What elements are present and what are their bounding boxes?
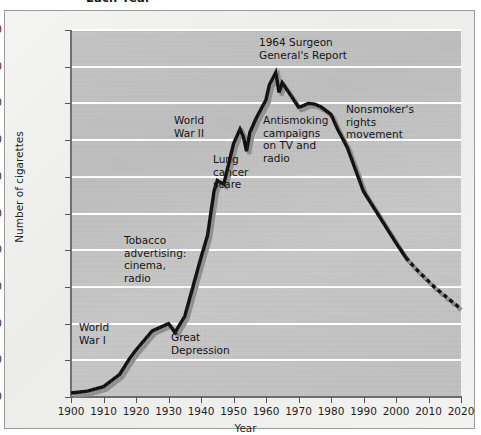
x-axis-tick-mark <box>429 397 430 403</box>
y-axis-tick-label: 2000 <box>0 243 2 255</box>
data-series-line <box>71 30 461 397</box>
annotation-nonsmoker-rights: Nonsmoker's rights movement <box>346 103 414 141</box>
y-axis-tick-label: 4500 <box>0 60 2 72</box>
x-axis-title: Year <box>5 422 481 434</box>
page-title: Each Year <box>86 0 386 4</box>
plot-area: 1900191019201930194019501960197019801990… <box>71 30 461 397</box>
series-line-projected <box>406 258 461 309</box>
annotation-world-war-ii: World War II <box>174 114 204 139</box>
x-axis-tick-mark <box>234 397 235 403</box>
y-axis-tick-label: 4000 <box>0 96 2 108</box>
x-axis-tick-mark <box>299 397 300 403</box>
y-axis-tick-label: 1000 <box>0 317 2 329</box>
annotation-great-depression: Great Depression <box>171 331 230 356</box>
y-axis-tick-label: 3500 <box>0 133 2 145</box>
x-axis-tick-mark <box>461 397 462 403</box>
x-axis-tick-mark <box>201 397 202 403</box>
x-axis-tick-mark <box>136 397 137 403</box>
x-axis-tick-mark <box>364 397 365 403</box>
x-axis-tick-mark <box>331 397 332 403</box>
annotation-world-war-i: World War I <box>79 321 109 346</box>
annotation-antismoking: Antismoking campaigns on TV and radio <box>263 114 328 164</box>
x-axis-tick-mark <box>104 397 105 403</box>
y-axis-tick-label: 500 <box>0 353 2 365</box>
annotation-lung-cancer-scare: Lung cancer scare <box>213 153 248 191</box>
y-axis-tick-label: 2500 <box>0 207 2 219</box>
y-axis-tick-label: 5000 <box>0 23 2 35</box>
y-axis-tick-label: 3000 <box>0 170 2 182</box>
y-axis-title: Number of cigarettes <box>13 107 25 267</box>
x-axis-tick-label: 2020 <box>439 405 481 417</box>
annotation-surgeon-general: 1964 Surgeon General's Report <box>259 36 347 61</box>
x-axis-tick-mark <box>169 397 170 403</box>
y-axis-tick-label: 0 <box>0 390 2 402</box>
y-axis-tick-label: 1500 <box>0 280 2 292</box>
annotation-tobacco-advertising: Tobacco advertising: cinema, radio <box>124 234 186 284</box>
x-axis-tick-mark <box>396 397 397 403</box>
chart-figure-frame: Number of cigarettes Year 05001000150020… <box>4 10 475 429</box>
x-axis-tick-mark <box>266 397 267 403</box>
x-axis-tick-mark <box>71 397 72 403</box>
